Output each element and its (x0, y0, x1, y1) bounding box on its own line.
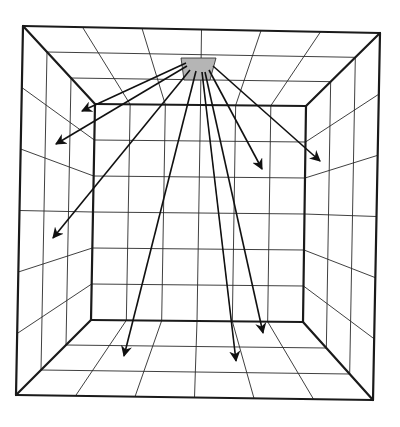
room-edge (95, 104, 306, 106)
floor-grid-line (195, 321, 198, 398)
left-wall-grid-line (21, 149, 94, 176)
arrow-icon (205, 72, 263, 333)
left-wall-grid-line (18, 248, 92, 272)
room-edge (303, 322, 373, 400)
arrow-icon (124, 71, 196, 356)
right-wall-grid-line (304, 286, 375, 339)
room-perspective-drawing (0, 0, 400, 427)
arrow-icon (209, 70, 262, 169)
light-source-patch (181, 58, 216, 80)
arrow-icon (202, 72, 236, 361)
room-edge (23, 26, 95, 104)
room-edge (16, 320, 91, 395)
wall-grid (17, 27, 379, 399)
room-diagram (0, 0, 400, 427)
ceiling-grid-line (271, 32, 321, 106)
arrow-icon (213, 66, 320, 161)
right-wall-grid-line (305, 155, 378, 178)
floor-grid-line (268, 322, 314, 400)
left-wall-grid-line (22, 88, 95, 141)
floor-grid-line (135, 321, 162, 397)
light-source-icon (181, 58, 216, 80)
left-wall-grid-line (17, 284, 92, 334)
right-wall-grid-line (306, 94, 379, 142)
room-edge (306, 33, 380, 106)
right-wall-grid-line (304, 250, 375, 278)
room-edge (91, 320, 303, 322)
room-edge (303, 106, 306, 322)
ceiling-grid-line (142, 28, 165, 104)
left-wall-grid-line (20, 211, 94, 213)
ceiling-grid-line (236, 31, 261, 106)
right-wall-grid-line (305, 214, 377, 217)
floor-grid-line (76, 320, 127, 396)
